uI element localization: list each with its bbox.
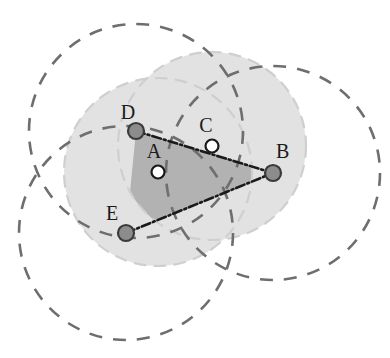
node-b[interactable]	[265, 165, 281, 181]
circles-diagram: A B C D E	[0, 0, 390, 358]
diagram-canvas: A B C D E	[0, 0, 390, 358]
label-a: A	[147, 140, 162, 162]
node-a[interactable]	[152, 166, 165, 179]
label-e: E	[106, 202, 118, 224]
node-d[interactable]	[128, 123, 144, 139]
label-b: B	[276, 140, 289, 162]
label-d: D	[121, 101, 135, 123]
node-c[interactable]	[206, 140, 219, 153]
node-e[interactable]	[118, 225, 134, 241]
label-c: C	[199, 114, 212, 136]
